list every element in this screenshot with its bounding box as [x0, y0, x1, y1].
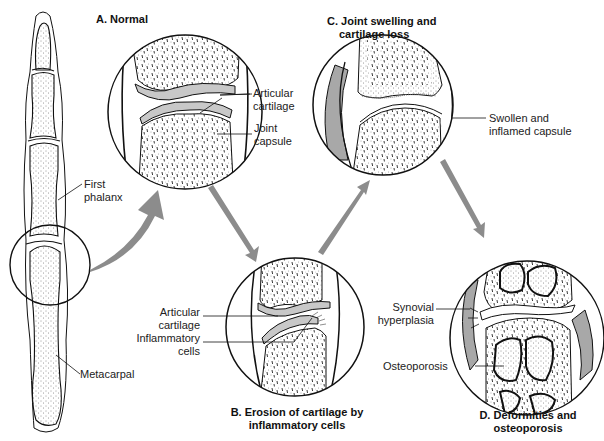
arrow-b-to-c — [318, 180, 370, 255]
label-b-inflammatory-cells: Inflammatory cells — [120, 332, 200, 358]
panel-d-title: D. Deformities and osteoporosis — [448, 409, 604, 435]
label-c-swollen-capsule-line2: inflamed capsule — [489, 125, 572, 138]
label-b-articular-cartilage-line2: cartilage — [130, 319, 200, 332]
label-b-inflammatory-cells-line1: Inflammatory — [120, 332, 200, 345]
panel-b-title: B. Erosion of cartilage by inflammatory … — [212, 406, 382, 432]
label-first-phalanx-line2: phalanx — [84, 191, 123, 204]
panel-d-joint — [450, 255, 604, 420]
label-a-articular-cartilage-line1: Articular — [253, 87, 295, 100]
label-b-articular-cartilage-line1: Articular — [130, 306, 200, 319]
label-metacarpal: Metacarpal — [80, 368, 134, 381]
label-d-osteoporosis: Osteoporosis — [383, 360, 448, 373]
label-d-synovial-hyperplasia-line1: Synovial — [370, 301, 434, 314]
label-first-phalanx: First phalanx — [84, 178, 123, 204]
label-first-phalanx-line1: First — [84, 178, 123, 191]
label-a-joint-capsule-line2: capsule — [254, 135, 292, 148]
label-a-articular-cartilage-line2: cartilage — [253, 100, 295, 113]
finger-bones — [24, 12, 68, 432]
panel-a-joint — [108, 30, 262, 200]
label-c-swollen-capsule: Swollen and inflamed capsule — [489, 112, 572, 138]
panel-c-title-line1: C. Joint swelling and — [327, 15, 436, 28]
arrow-c-to-d — [440, 159, 485, 238]
panel-c-joint — [313, 30, 471, 180]
label-b-inflammatory-cells-line2: cells — [120, 345, 200, 358]
label-d-synovial-hyperplasia-line2: hyperplasia — [370, 314, 434, 327]
label-c-swollen-capsule-line1: Swollen and — [489, 112, 572, 125]
panel-c-title: C. Joint swelling and cartilage loss — [327, 15, 436, 41]
label-a-joint-capsule: Joint capsule — [254, 122, 292, 148]
panel-c-title-line2: cartilage loss — [327, 28, 436, 41]
label-a-articular-cartilage: Articular cartilage — [253, 87, 295, 113]
label-b-articular-cartilage: Articular cartilage — [130, 306, 200, 332]
arrow-a-to-b — [208, 185, 259, 262]
panel-b-title-line2: inflammatory cells — [212, 419, 382, 432]
panel-d-title-line2: osteoporosis — [448, 422, 604, 435]
panel-b-title-line1: B. Erosion of cartilage by — [212, 406, 382, 419]
label-a-joint-capsule-line1: Joint — [254, 122, 292, 135]
label-d-synovial-hyperplasia: Synovial hyperplasia — [370, 301, 434, 327]
panel-a-title: A. Normal — [96, 13, 148, 26]
panel-b-joint — [226, 250, 364, 400]
panel-d-title-line1: D. Deformities and — [448, 409, 604, 422]
